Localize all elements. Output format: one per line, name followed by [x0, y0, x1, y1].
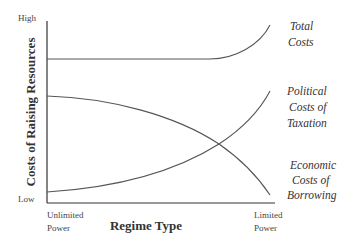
x-tick-limited-line1: Limited — [254, 210, 283, 220]
total-costs-curve — [47, 25, 270, 59]
political-costs-taxation-curve — [47, 91, 270, 192]
x-tick-unlimited-line2: Power — [47, 223, 70, 233]
x-tick-unlimited-line1: Unlimited — [47, 210, 84, 220]
label-borrow-line3: Borrowing — [287, 189, 337, 202]
x-tick-limited-line2: Power — [254, 223, 277, 233]
regime-cost-chart: High Low Costs of Raising Resources Unli… — [0, 0, 353, 246]
x-axis-title: Regime Type — [110, 218, 182, 233]
label-tax-line1: Political — [286, 85, 327, 97]
label-borrow-line1: Economic — [289, 159, 336, 171]
label-borrow-line2: Costs of — [292, 174, 331, 187]
y-axis-title: Costs of Raising Resources — [23, 38, 38, 187]
label-tax-line2: Costs of — [289, 101, 328, 114]
y-tick-low: Low — [18, 194, 35, 204]
y-tick-high: High — [18, 13, 37, 23]
label-total-line2: Costs — [288, 36, 314, 48]
label-tax-line3: Taxation — [287, 117, 327, 129]
economic-costs-borrowing-curve — [47, 96, 270, 195]
label-total-line1: Total — [290, 20, 313, 32]
